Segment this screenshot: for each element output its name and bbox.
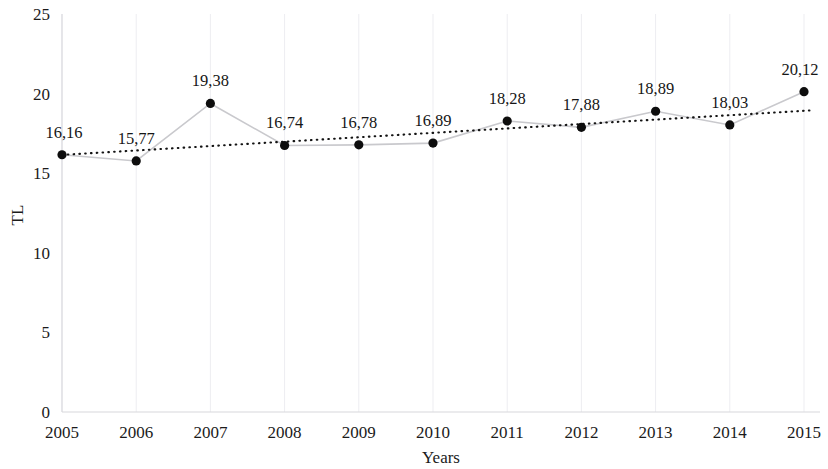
- x-tick-label: 2011: [491, 423, 524, 442]
- data-value-label: 18,89: [637, 79, 674, 98]
- x-tick-label: 2013: [639, 423, 673, 442]
- data-value-labels: 16,1615,7719,3816,7416,7816,8918,2817,88…: [45, 60, 818, 148]
- data-point-marker: [354, 140, 363, 149]
- x-axis-tick-labels: 2005200620072008200920102011201220132014…: [45, 423, 821, 442]
- y-tick-label: 5: [42, 323, 51, 342]
- y-tick-label: 25: [33, 5, 50, 24]
- x-tick-label: 2010: [416, 423, 450, 442]
- data-value-label: 18,28: [489, 89, 526, 108]
- data-point-marker: [206, 99, 215, 108]
- x-tick-label: 2012: [564, 423, 598, 442]
- y-tick-label: 10: [33, 244, 50, 263]
- x-tick-label: 2009: [342, 423, 376, 442]
- data-point-marker: [651, 107, 660, 116]
- data-point-marker: [428, 139, 437, 148]
- x-tick-label: 2007: [193, 423, 228, 442]
- data-value-label: 16,89: [414, 111, 451, 130]
- x-tick-label: 2008: [268, 423, 302, 442]
- data-point-marker: [799, 87, 808, 96]
- y-axis-title: TL: [8, 205, 27, 226]
- x-tick-label: 2015: [787, 423, 821, 442]
- data-point-marker: [132, 156, 141, 165]
- data-point-marker: [577, 123, 586, 132]
- x-axis-title: Years: [422, 448, 460, 467]
- gridlines: [62, 14, 804, 412]
- y-tick-label: 20: [33, 85, 50, 104]
- data-value-label: 17,88: [563, 95, 600, 114]
- data-point-marker: [725, 120, 734, 129]
- data-point-marker: [280, 141, 289, 150]
- data-value-label: 19,38: [192, 71, 229, 90]
- x-tick-label: 2014: [713, 423, 748, 442]
- data-point-marker: [503, 116, 512, 125]
- data-value-label: 15,77: [118, 129, 155, 148]
- data-value-label: 16,16: [45, 123, 82, 142]
- y-axis-tick-labels: 0510152025: [33, 5, 50, 422]
- data-value-label: 16,74: [266, 113, 303, 132]
- data-value-label: 18,03: [711, 93, 748, 112]
- chart-canvas: 0510152025 20052006200720082009201020112…: [0, 0, 828, 469]
- data-point-marker: [57, 150, 66, 159]
- y-tick-label: 0: [42, 403, 51, 422]
- data-value-label: 16,78: [340, 113, 377, 132]
- x-tick-label: 2005: [45, 423, 79, 442]
- line-chart: 0510152025 20052006200720082009201020112…: [0, 0, 828, 469]
- data-value-label: 20,12: [781, 60, 818, 79]
- x-tick-label: 2006: [119, 423, 153, 442]
- y-tick-label: 15: [33, 164, 50, 183]
